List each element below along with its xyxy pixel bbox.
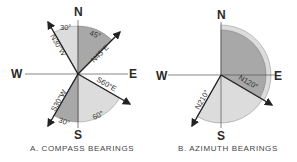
cardinal-e: E: [129, 67, 137, 81]
compass-bearings-diagram: N E S W 30° 45° 60° 30° N30°W N45°E S60°…: [11, 5, 137, 153]
cardinal-s: S: [74, 128, 82, 142]
caption-b: B. AZIMUTH BEARINGS: [178, 144, 278, 153]
caption-a: A. COMPASS BEARINGS: [30, 144, 134, 153]
bearings-diagram: N E S W 30° 45° 60° 30° N30°W N45°E S60°…: [0, 0, 297, 162]
cardinal-s-b: S: [217, 129, 225, 143]
cardinal-n: N: [74, 5, 83, 19]
cardinal-w-b: W: [156, 69, 168, 83]
cardinal-e-b: E: [274, 69, 282, 83]
cardinal-w: W: [11, 67, 23, 81]
azimuth-bearings-diagram: N E S W N120° N210° B. AZIMUTH BEARINGS: [156, 8, 282, 153]
arc-label-n30w: 30°: [60, 23, 71, 32]
cardinal-n-b: N: [217, 8, 226, 22]
